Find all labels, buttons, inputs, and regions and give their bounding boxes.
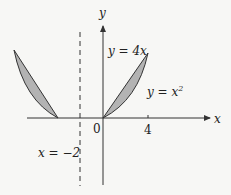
shaded-region-left xyxy=(14,50,58,118)
x-axis-label: x xyxy=(214,112,221,126)
line-label: y = 4x xyxy=(107,44,147,58)
parabola-label: y = x2 xyxy=(146,84,183,99)
parabola-label-base: y = x xyxy=(146,85,178,99)
dashed-line-label: x = −2 xyxy=(38,146,80,160)
shaded-region-right xyxy=(103,53,148,118)
y-axis-label: y xyxy=(98,6,106,20)
parabola-label-exp: 2 xyxy=(177,84,183,93)
diagram-canvas: y x 0 4 y = 4x y = x2 x = −2 xyxy=(0,0,231,195)
x-tick-label-4: 4 xyxy=(144,123,152,137)
origin-label: 0 xyxy=(93,122,101,136)
